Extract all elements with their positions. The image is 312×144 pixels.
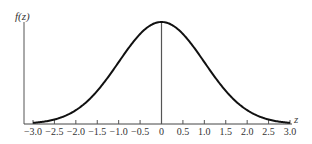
x-tick-label: 0 [159, 126, 164, 137]
x-tick-label: −1.5 [88, 126, 106, 137]
x-tick-label: 1.5 [220, 126, 233, 137]
y-axis-label: f(z) [15, 10, 30, 22]
x-axis-label: z [294, 113, 298, 125]
x-tick-label: −0.5 [131, 126, 149, 137]
x-tick-label: 3.0 [284, 126, 297, 137]
x-tick-label: −2.0 [67, 126, 85, 137]
x-tick-label: −3.0 [24, 126, 42, 137]
x-tick-label: 2.0 [241, 126, 254, 137]
x-tick-label: 0.5 [177, 126, 190, 137]
normal-distribution-chart [0, 0, 312, 144]
x-tick-label: −1.0 [110, 126, 128, 137]
x-tick-label: 1.0 [198, 126, 211, 137]
x-tick-label: −2.5 [45, 126, 63, 137]
x-tick-label: 2.5 [262, 126, 275, 137]
